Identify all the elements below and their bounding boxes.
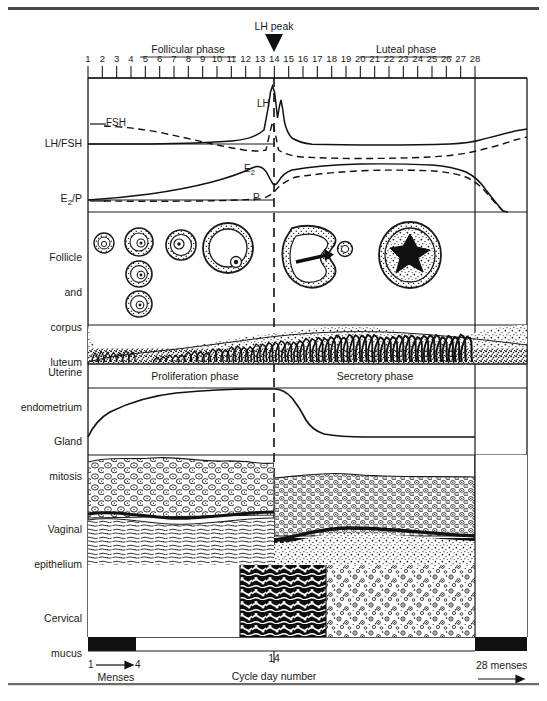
row-label-endometrium-l1: Uterine [0,367,82,379]
row-label-e2-p: E2/P [0,193,82,208]
curve-gland-mitosis [88,389,475,437]
sublabel-secretory-phase: Secretory phase [300,371,450,383]
e2-p-panel [88,164,508,212]
curve-annotation-fsh: FSH [106,117,126,128]
menses-start-day: 1 [88,659,94,670]
menses-right-label: 28 menses [476,660,527,672]
row-label-gland-mitosis: Gland mitosis [0,412,82,506]
lh-fsh-panel [88,86,527,159]
menses-bar-left [88,637,136,651]
diagram-canvas [0,0,547,701]
lh-peak-marker-icon [265,34,283,52]
curve-annotation-lh: LH [257,98,270,109]
row-label-gland-mitosis-l1: Gland [0,436,82,448]
follicle-graafian [203,223,253,273]
row-label-vaginal-l2: epithelium [0,559,82,571]
menses-caption: Menses [84,672,148,684]
mucus-segment-stippled [326,565,475,637]
mucus-segment-ferning [240,565,326,637]
row-label-follicle-l1: Follicle [0,252,82,264]
cycle-mid-day: 14 [254,653,294,665]
day-axis-ticks [88,66,475,78]
curve-annotation-p: P [253,192,260,203]
row-label-cervical-l2: mucus [0,648,82,660]
follicle-ovulation [282,226,352,288]
curve-p [104,170,504,212]
menses-bar-right [475,637,527,651]
corpus-luteum [379,222,441,288]
menses-right-arrow-icon [478,676,524,683]
row-label-follicle-l3: corpus [0,322,82,334]
lh-peak-label: LH peak [238,21,310,33]
row-label-cervical-l1: Cervical [0,613,82,625]
row-label-vaginal-epithelium: Vaginal epithelium [0,500,82,594]
vaginal-epithelium-row [88,455,527,565]
day-label-28: 28 [466,54,484,65]
row-label-vaginal-l1: Vaginal [0,524,82,536]
row-label-e2-p-text: E [61,192,68,204]
curve-lh [88,86,527,145]
cycle-day-axis-label: Cycle day number [214,671,334,683]
curve-annotation-e2: E2 [244,163,255,177]
menses-left-arrow-icon [96,662,133,669]
rule-top [8,7,539,10]
curve-fsh [104,122,527,159]
row-label-follicle-l2: and [0,287,82,299]
follicle-primordial [94,233,114,253]
sublabel-proliferation-phase: Proliferation phase [120,371,270,383]
cervical-mucus-row [88,565,527,637]
gland-mitosis-row [88,389,475,437]
follicle-primary-cluster [125,228,153,317]
menses-end-day: 4 [135,659,141,670]
follicle-secondary [166,230,196,260]
follicle-row [94,222,441,317]
curve-e2 [88,164,508,212]
mucus-segment-blank [88,565,240,637]
row-label-lh-fsh: LH/FSH [0,138,82,150]
row-label-cervical-mucus: Cervical mucus [0,589,82,683]
endometrium-row [88,325,527,364]
row-label-gland-mitosis-l2: mitosis [0,471,82,483]
menstrual-cycle-figure: Follicular phase Luteal phase LH peak 12… [0,0,547,701]
